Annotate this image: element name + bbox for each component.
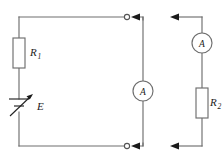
terminal-bottom[interactable]	[124, 143, 129, 148]
resistor-r1-subscript: 1	[38, 52, 42, 61]
resistor-r1-body	[13, 38, 25, 68]
terminal-top[interactable]	[124, 14, 129, 19]
left-branch-group	[9, 17, 126, 146]
source-label: E	[36, 100, 44, 112]
ammeter-middle-label: A	[139, 87, 146, 97]
current-arrow-bottom-right	[170, 142, 179, 149]
terminal-group	[124, 14, 129, 148]
resistor-r2-subscript: 2	[218, 102, 222, 111]
resistor-r1-label: R	[29, 46, 37, 58]
resistor-r2-body	[196, 88, 208, 118]
ammeter-right-label: A	[198, 39, 205, 49]
circuit-schematic-canvas: A A	[0, 0, 222, 165]
current-arrow-bottom-middle	[131, 142, 140, 149]
current-arrow-top-middle	[131, 13, 140, 20]
current-arrow-top-right	[170, 13, 179, 20]
middle-branch-group: A	[131, 13, 153, 149]
label-group: R 1 E R 2	[29, 46, 222, 112]
right-branch-group: A	[170, 13, 212, 149]
resistor-r2-label: R	[209, 96, 217, 108]
circuit-diagram: A A	[0, 0, 222, 165]
